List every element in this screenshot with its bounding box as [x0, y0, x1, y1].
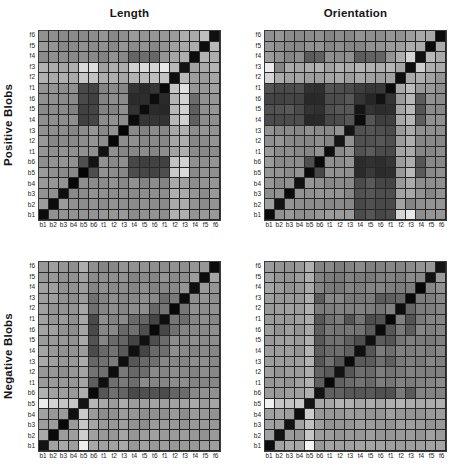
heatmap-cell — [406, 147, 416, 158]
heatmap-cell — [285, 367, 295, 378]
heatmap-cell — [366, 262, 376, 273]
heatmap-cell — [140, 441, 150, 452]
heatmap-cell — [295, 189, 305, 200]
heatmap-cell — [275, 294, 285, 305]
heatmap-cell — [129, 31, 139, 42]
heatmap-cell — [210, 430, 220, 441]
heatmap-cell — [396, 430, 406, 441]
heatmap-cell — [129, 63, 139, 74]
heatmap-cell — [190, 430, 200, 441]
heatmap-cell — [325, 357, 335, 368]
heatmap-cell — [150, 357, 160, 368]
heatmap-cell — [265, 126, 275, 137]
x-tick-label: f1 — [160, 453, 170, 460]
heatmap-cell — [406, 73, 416, 84]
heatmap-cell — [190, 147, 200, 158]
heatmap-cell — [345, 420, 355, 431]
heatmap-cell — [140, 84, 150, 95]
heatmap-cell — [39, 136, 49, 147]
heatmap-cell — [406, 378, 416, 389]
heatmap-cell — [285, 210, 295, 221]
x-tick-label: f6 — [211, 222, 221, 229]
heatmap-cell — [366, 84, 376, 95]
heatmap-cell — [210, 147, 220, 158]
heatmap-cell — [150, 315, 160, 326]
heatmap-cell — [59, 357, 69, 368]
heatmap-cell — [69, 42, 79, 53]
heatmap-cell — [99, 136, 109, 147]
y-tick-label: t3 — [256, 125, 263, 136]
heatmap-cell — [69, 357, 79, 368]
heatmap-cell — [89, 357, 99, 368]
heatmap-cell — [325, 136, 335, 147]
heatmap-cell — [109, 63, 119, 74]
heatmap-cell — [140, 136, 150, 147]
heatmap-cell — [160, 189, 170, 200]
heatmap-cell — [315, 273, 325, 284]
heatmap-panel-negative-orientation: f6f5f4f3f2f1t6t5t4t3t2t1b6b5b4b3b2b1 b1b… — [264, 261, 447, 452]
heatmap-cell — [210, 199, 220, 210]
heatmap-cell — [366, 115, 376, 126]
heatmap-cell — [140, 273, 150, 284]
heatmap-cell — [325, 189, 335, 200]
heatmap-cell — [79, 378, 89, 389]
heatmap-cell — [366, 283, 376, 294]
heatmap-cell — [325, 294, 335, 305]
heatmap-cell — [345, 73, 355, 84]
heatmap-cell — [160, 409, 170, 420]
heatmap-cell — [386, 31, 396, 42]
heatmap-cell — [376, 94, 386, 105]
heatmap-cell — [396, 357, 406, 368]
heatmap-cell — [285, 315, 295, 326]
heatmap-cell — [325, 94, 335, 105]
heatmap-cell — [416, 52, 426, 63]
heatmap-cell — [200, 94, 210, 105]
heatmap-cell — [190, 73, 200, 84]
heatmap-cell — [436, 388, 446, 399]
heatmap-cell — [406, 157, 416, 168]
heatmap-cell — [89, 294, 99, 305]
heatmap-cell — [345, 189, 355, 200]
heatmap-cell — [160, 136, 170, 147]
heatmap-cell — [396, 199, 406, 210]
heatmap-cell — [69, 147, 79, 158]
heatmap-cell — [89, 63, 99, 74]
heatmap-cell — [59, 31, 69, 42]
heatmap-cell — [426, 325, 436, 336]
heatmap-cell — [426, 262, 436, 273]
x-tick-label: b5 — [305, 453, 315, 460]
heatmap-cell — [129, 168, 139, 179]
heatmap-cell — [275, 42, 285, 53]
heatmap-cell — [355, 84, 365, 95]
heatmap-cell — [426, 84, 436, 95]
heatmap-cell — [275, 136, 285, 147]
heatmap-cell — [150, 399, 160, 410]
heatmap-cell — [436, 63, 446, 74]
heatmap-matrix-negative-orientation — [264, 261, 447, 452]
heatmap-cell — [416, 210, 426, 221]
heatmap-cell — [355, 357, 365, 368]
heatmap-cell — [386, 304, 396, 315]
heatmap-cell — [89, 147, 99, 158]
heatmap-cell — [305, 94, 315, 105]
heatmap-cell — [345, 367, 355, 378]
heatmap-cell — [69, 325, 79, 336]
heatmap-cell — [210, 388, 220, 399]
heatmap-cell — [180, 31, 190, 42]
heatmap-cell — [180, 430, 190, 441]
heatmap-cell — [355, 399, 365, 410]
heatmap-cell — [416, 126, 426, 137]
heatmap-cell — [140, 420, 150, 431]
heatmap-cell — [150, 336, 160, 347]
heatmap-cell — [119, 105, 129, 116]
heatmap-cell — [210, 367, 220, 378]
heatmap-cell — [406, 63, 416, 74]
x-tick-label: t2 — [335, 222, 345, 229]
heatmap-cell — [396, 262, 406, 273]
heatmap-cell — [396, 283, 406, 294]
y-tick-label: t5 — [30, 335, 37, 346]
heatmap-cell — [345, 63, 355, 74]
heatmap-cell — [345, 378, 355, 389]
heatmap-cell — [406, 325, 416, 336]
heatmap-cell — [305, 378, 315, 389]
